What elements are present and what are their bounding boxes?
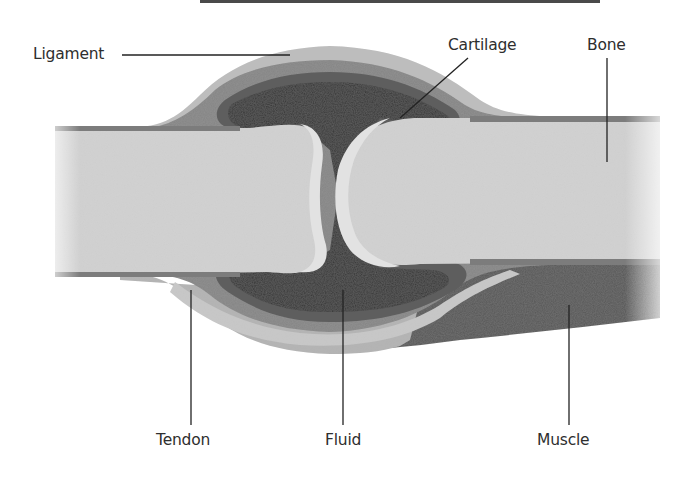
bone-right <box>338 118 660 265</box>
bone-left-periosteum-bottom <box>55 272 240 277</box>
label-fluid: Fluid <box>325 433 361 449</box>
joint-diagram <box>0 0 675 490</box>
top-edge-strip <box>200 0 600 3</box>
label-muscle: Muscle <box>537 433 589 449</box>
label-tendon: Tendon <box>156 433 210 449</box>
label-bone: Bone <box>587 38 626 54</box>
bone-left <box>55 125 319 275</box>
bone-left-periosteum-top <box>55 126 240 131</box>
label-ligament: Ligament <box>33 47 104 63</box>
label-cartilage: Cartilage <box>448 38 516 54</box>
